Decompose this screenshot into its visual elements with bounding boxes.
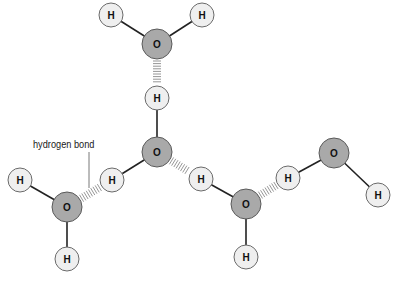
hydrogen-atom: H	[55, 247, 79, 271]
hydrogen-atom: H	[276, 166, 300, 190]
atom-label: H	[374, 190, 381, 201]
atom-label: H	[108, 175, 115, 186]
atoms: OHHHOHHOHHOHHOH	[8, 3, 390, 271]
hydrogen-atom: H	[234, 245, 258, 269]
hydrogen-atom: H	[99, 3, 123, 27]
atom-label: O	[63, 202, 71, 213]
hydrogen-atom: H	[8, 168, 32, 192]
hydrogen-atom: H	[100, 168, 124, 192]
atom-label: H	[284, 173, 291, 184]
hydrogen-bond	[258, 182, 278, 198]
oxygen-atom: O	[319, 138, 349, 168]
covalent-bonds	[20, 15, 378, 259]
atom-label: H	[242, 252, 249, 263]
hydrogen-bond	[80, 184, 102, 202]
atom-label: O	[330, 148, 338, 159]
atom-label: H	[16, 175, 23, 186]
atom-label: O	[153, 39, 161, 50]
hydrogen-atom: H	[190, 3, 214, 27]
hydrogen-bond-label: hydrogen bond	[33, 139, 94, 150]
oxygen-atom: O	[142, 137, 172, 167]
hydrogen-atom: H	[366, 183, 390, 207]
hydrogen-atom: H	[189, 167, 213, 191]
oxygen-atom: O	[142, 29, 172, 59]
atom-label: H	[198, 10, 205, 21]
hydrogen-atom: H	[145, 86, 169, 110]
atom-label: O	[242, 199, 250, 210]
atom-label: O	[153, 147, 161, 158]
hydrogen-bond	[169, 157, 189, 173]
atom-label: H	[107, 10, 114, 21]
atom-label: H	[197, 174, 204, 185]
hydrogen-bond	[153, 61, 161, 82]
atom-label: H	[63, 254, 70, 265]
oxygen-atom: O	[231, 189, 261, 219]
atom-label: H	[153, 93, 160, 104]
oxygen-atom: O	[52, 192, 82, 222]
